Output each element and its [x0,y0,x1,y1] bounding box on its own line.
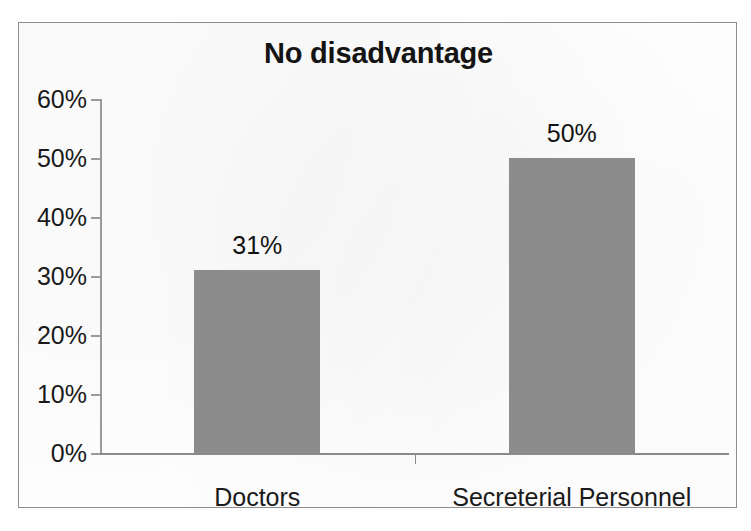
bar-value-label: 50% [547,119,597,148]
plot-area: 60%50%40%30%20%10%0% 31%50% [100,99,729,453]
y-tick-mark [91,276,100,278]
figure-canvas: No disadvantage 60%50%40%30%20%10%0% 31%… [0,0,751,531]
y-axis-line [100,99,102,453]
category-divider-tick [415,453,417,464]
y-tick-label: 50% [37,144,87,173]
y-tick-label: 0% [51,439,87,468]
bar-value-label: 31% [232,231,282,260]
y-tick-label: 40% [37,203,87,232]
y-tick-label: 60% [37,85,87,114]
chart-title: No disadvantage [19,37,738,70]
y-tick-mark [91,99,100,101]
y-tick-label: 30% [37,262,87,291]
bar-secreterial-personnel[interactable] [509,158,635,453]
chart-frame: No disadvantage 60%50%40%30%20%10%0% 31%… [18,22,737,508]
x-axis-labels: DoctorsSecreterial Personnel [100,483,729,519]
y-tick-mark [91,335,100,337]
bar-doctors[interactable] [194,270,320,453]
y-tick-mark [91,217,100,219]
x-axis-label-doctors: Doctors [214,483,300,512]
y-tick-label: 20% [37,321,87,350]
y-tick-mark [91,453,100,455]
y-tick-mark [91,394,100,396]
y-tick-mark [91,158,100,160]
y-tick-label: 10% [37,380,87,409]
x-axis-label-secreterial-personnel: Secreterial Personnel [452,483,691,512]
